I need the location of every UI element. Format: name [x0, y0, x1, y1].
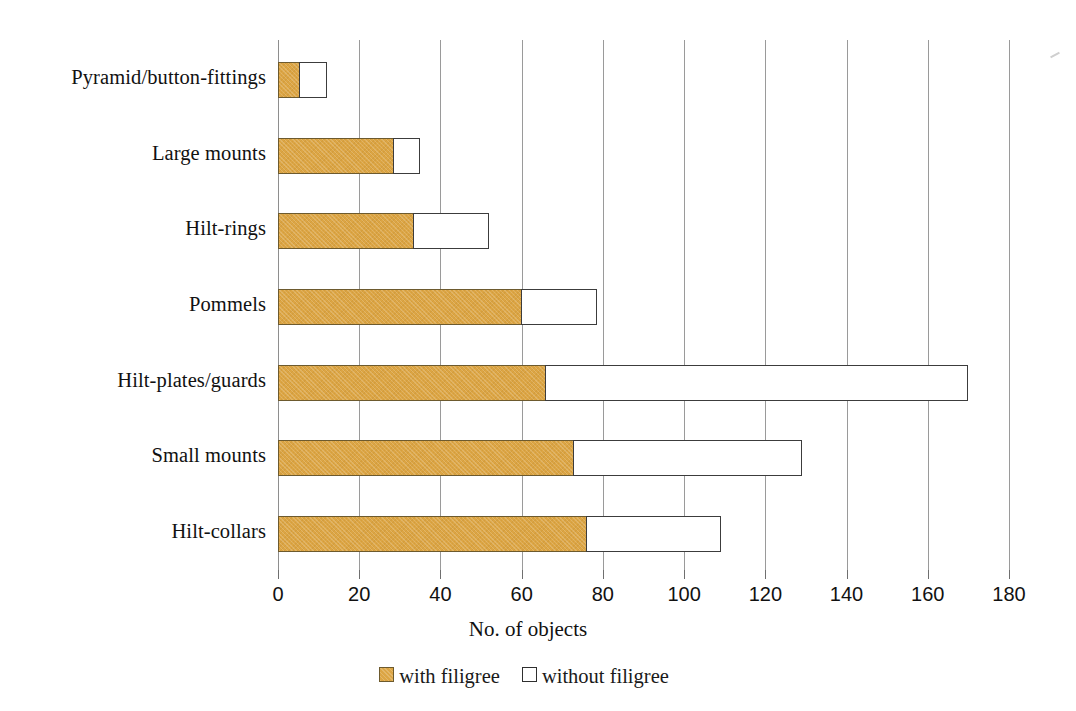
bar-row[interactable]: [278, 365, 968, 401]
bar-segment-with-filigree[interactable]: [278, 440, 574, 476]
chart-legend: with filigreewithout filigree: [0, 663, 1076, 688]
category-label: Hilt-plates/guards: [117, 369, 266, 392]
x-tick-label-80: 80: [592, 583, 614, 606]
plain-swatch: [522, 667, 537, 682]
x-tick-label-20: 20: [348, 583, 370, 606]
x-tick-label-40: 40: [429, 583, 451, 606]
category-label: Hilt-rings: [185, 217, 266, 240]
x-tick-120: [765, 570, 766, 579]
gridline-140: [847, 40, 848, 570]
category-label: Hilt-collars: [171, 520, 266, 543]
bar-segment-without-filigree[interactable]: [586, 516, 721, 552]
x-tick-100: [684, 570, 685, 579]
bar-segment-without-filigree[interactable]: [393, 138, 420, 174]
x-tick-label-100: 100: [667, 583, 700, 606]
scan-artifact-mark: [1050, 52, 1060, 58]
x-tick-60: [522, 570, 523, 579]
filigree-swatch: [379, 667, 394, 682]
x-tick-label-160: 160: [911, 583, 944, 606]
x-tick-label-120: 120: [749, 583, 782, 606]
x-tick-160: [928, 570, 929, 579]
bar-row[interactable]: [278, 516, 721, 552]
legend-items: with filigreewithout filigree: [368, 663, 680, 688]
bar-segment-without-filigree[interactable]: [413, 213, 489, 249]
x-tick-label-0: 0: [272, 583, 283, 606]
gridline-180: [1009, 40, 1010, 570]
gridline-80: [603, 40, 604, 570]
y-axis-labels: Pyramid/button-fittingsLarge mountsHilt-…: [0, 40, 266, 570]
bar-row[interactable]: [278, 440, 802, 476]
x-axis-title-text: No. of objects: [469, 617, 587, 642]
x-tick-180: [1009, 570, 1010, 579]
category-label: Pyramid/button-fittings: [71, 66, 266, 89]
category-label: Small mounts: [151, 444, 266, 467]
legend-item-without-filigree[interactable]: without filigree: [522, 663, 669, 688]
gridline-120: [765, 40, 766, 570]
bar-segment-with-filigree[interactable]: [278, 213, 414, 249]
bar-segment-with-filigree[interactable]: [278, 138, 394, 174]
gridline-100: [684, 40, 685, 570]
bar-row[interactable]: [278, 213, 489, 249]
bar-segment-with-filigree[interactable]: [278, 62, 300, 98]
bar-row[interactable]: [278, 289, 597, 325]
category-label: Large mounts: [152, 142, 266, 165]
x-tick-140: [847, 570, 848, 579]
legend-label: with filigree: [399, 665, 500, 688]
bar-segment-with-filigree[interactable]: [278, 516, 587, 552]
x-tick-0: [278, 570, 279, 579]
x-tick-label-140: 140: [830, 583, 863, 606]
bar-segment-with-filigree[interactable]: [278, 289, 522, 325]
bar-segment-without-filigree[interactable]: [299, 62, 326, 98]
category-label: Pommels: [189, 293, 266, 316]
stacked-bar-chart: Pyramid/button-fittingsLarge mountsHilt-…: [0, 0, 1076, 711]
legend-item-with-filigree[interactable]: with filigree: [379, 663, 500, 688]
bar-segment-without-filigree[interactable]: [573, 440, 801, 476]
bar-segment-without-filigree[interactable]: [521, 289, 597, 325]
x-axis-title: No. of objects: [0, 617, 1076, 642]
x-tick-80: [603, 570, 604, 579]
x-tick-40: [440, 570, 441, 579]
legend-label: without filigree: [542, 665, 669, 688]
bar-segment-with-filigree[interactable]: [278, 365, 546, 401]
plot-area: [278, 40, 1009, 570]
x-tick-20: [359, 570, 360, 579]
bar-segment-without-filigree[interactable]: [545, 365, 968, 401]
bar-row[interactable]: [278, 138, 420, 174]
x-tick-label-60: 60: [511, 583, 533, 606]
bar-row[interactable]: [278, 62, 327, 98]
gridline-160: [928, 40, 929, 570]
x-tick-label-180: 180: [992, 583, 1025, 606]
